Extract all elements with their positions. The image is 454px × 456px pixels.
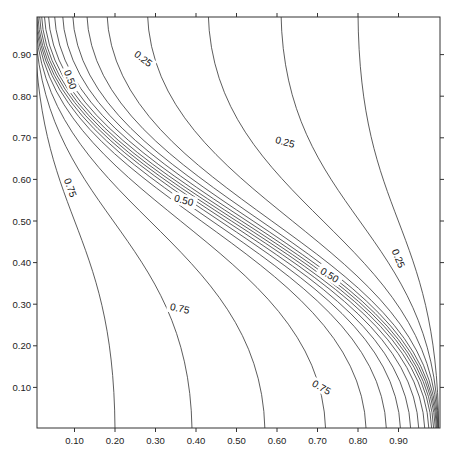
y-tick-label: 0.60 [13, 174, 32, 185]
contour-plot: 0.250.250.250.500.500.500.750.750.75 0.1… [0, 0, 454, 456]
y-tick-label: 0.80 [13, 91, 32, 102]
contour-line [62, 13, 431, 429]
x-tick-label: 0.40 [187, 435, 206, 446]
contour-line [36, 13, 326, 429]
contour-line [147, 13, 437, 429]
contour-labels: 0.250.250.250.500.500.500.750.750.75 [60, 46, 409, 399]
contour-line [208, 13, 438, 429]
contour-line [73, 13, 434, 429]
contour-line [281, 13, 438, 429]
y-tick-label: 0.10 [13, 382, 32, 393]
x-tick-label: 0.50 [227, 435, 246, 446]
contour-line [358, 13, 439, 429]
contour-line [107, 13, 437, 429]
contour-line [36, 13, 366, 429]
x-tick-label: 0.60 [268, 435, 287, 446]
contour-line [41, 13, 410, 429]
y-tick-label: 0.40 [13, 257, 32, 268]
contour-label: 0.75 [169, 301, 191, 316]
y-tick-label: 0.20 [13, 340, 32, 351]
contour-label: 0.25 [274, 134, 296, 150]
y-tick-label: 0.70 [13, 132, 32, 143]
x-tick-label: 0.90 [389, 435, 408, 446]
x-tick-label: 0.10 [65, 435, 84, 446]
x-tick-label: 0.80 [349, 435, 368, 446]
contour-line [48, 13, 425, 429]
contour-line [35, 13, 192, 429]
contour-line [44, 13, 419, 429]
y-tick-label: 0.30 [13, 299, 32, 310]
x-tick-label: 0.70 [308, 435, 327, 446]
contour-line [54, 13, 429, 429]
y-tick-label: 0.50 [13, 216, 32, 227]
x-tick-label: 0.30 [146, 435, 165, 446]
y-tick-label: 0.90 [13, 49, 32, 60]
contour-line [39, 13, 400, 429]
contour-lines [34, 13, 438, 429]
x-tick-label: 0.20 [106, 435, 125, 446]
